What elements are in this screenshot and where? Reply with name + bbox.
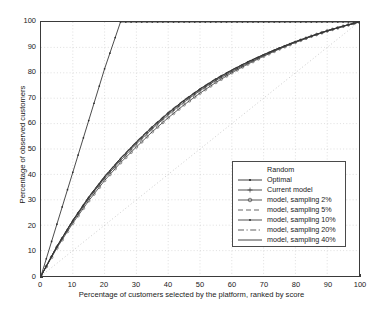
x-tick-label: 20 xyxy=(92,281,116,289)
legend-label: model, sampling 10% xyxy=(267,215,336,225)
y-tick-label: 10 xyxy=(8,247,36,255)
legend-key-icon xyxy=(237,215,263,225)
legend-item-0: Random xyxy=(237,165,341,175)
legend-key-icon xyxy=(237,185,263,195)
x-tick-label: 40 xyxy=(156,281,180,289)
x-tick-mark xyxy=(360,274,361,277)
legend-label: Optimal xyxy=(267,175,292,185)
legend: RandomOptimalCurrent modelmodel, samplin… xyxy=(232,161,346,247)
x-tick-label: 10 xyxy=(60,281,84,289)
legend-item-1: Optimal xyxy=(237,175,341,185)
legend-label: model, sampling 40% xyxy=(267,235,336,245)
legend-item-6: model, sampling 20% xyxy=(237,225,341,235)
legend-item-7: model, sampling 40% xyxy=(237,235,341,245)
y-tick-label: 30 xyxy=(8,196,36,204)
y-tick-mark xyxy=(40,277,43,278)
x-tick-label: 60 xyxy=(220,281,244,289)
x-tick-label: 70 xyxy=(252,281,276,289)
y-tick-label: 0 xyxy=(8,273,36,281)
y-tick-label: 60 xyxy=(8,119,36,127)
legend-label: model, sampling 2% xyxy=(267,195,332,205)
legend-key-icon xyxy=(237,235,263,245)
x-axis-label: Percentage of customers selected by the … xyxy=(0,290,383,299)
x-tick-label: 80 xyxy=(284,281,308,289)
chart-figure: Percentage of observed customers 0102030… xyxy=(0,0,383,313)
legend-key-icon xyxy=(237,195,263,205)
x-tick-label: 100 xyxy=(348,281,372,289)
y-tick-label: 90 xyxy=(8,43,36,51)
legend-item-2: Current model xyxy=(237,185,341,195)
legend-key-icon xyxy=(237,205,263,215)
y-tick-label: 100 xyxy=(8,17,36,25)
x-tick-label: 90 xyxy=(316,281,340,289)
x-tick-label: 0 xyxy=(28,281,52,289)
y-tick-label: 20 xyxy=(8,222,36,230)
x-tick-label: 30 xyxy=(124,281,148,289)
legend-label: model, sampling 5% xyxy=(267,205,332,215)
legend-item-4: model, sampling 5% xyxy=(237,205,341,215)
legend-item-5: model, sampling 10% xyxy=(237,215,341,225)
legend-label: Current model xyxy=(267,185,313,195)
x-tick-label: 50 xyxy=(188,281,212,289)
legend-label: Random xyxy=(267,165,294,175)
y-tick-label: 40 xyxy=(8,171,36,179)
legend-key-icon xyxy=(237,165,263,175)
legend-key-icon xyxy=(237,175,263,185)
y-tick-label: 70 xyxy=(8,94,36,102)
legend-item-3: model, sampling 2% xyxy=(237,195,341,205)
legend-label: model, sampling 20% xyxy=(267,225,336,235)
y-tick-label: 50 xyxy=(8,145,36,153)
legend-key-icon xyxy=(237,225,263,235)
y-tick-label: 80 xyxy=(8,68,36,76)
